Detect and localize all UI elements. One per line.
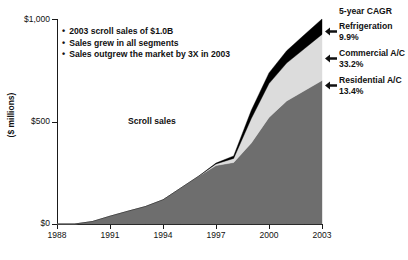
x-tick-label-2003: 2003 <box>300 230 344 240</box>
legend-item-label: Residential A/C <box>339 75 408 86</box>
bullet-item: • Sales grew in all segments <box>62 38 277 50</box>
left-arrow-icon <box>325 22 337 31</box>
legend-item-residential-ac: Residential A/C 13.4% <box>325 75 408 96</box>
bottom-caption <box>2 250 302 258</box>
x-tick-label-1988: 1988 <box>35 230 79 240</box>
x-tick-mark-1988 <box>57 225 58 229</box>
scroll-sales-annotation: Scroll sales <box>128 116 176 126</box>
legend-item-value: 9.9% <box>339 32 408 43</box>
left-arrow-icon <box>325 76 337 85</box>
bullet-text: Sales grew in all segments <box>69 38 178 50</box>
bullet-item: • Sales outgrew the market by 3X in 2003 <box>62 49 277 61</box>
x-tick-mark-1997 <box>216 225 217 229</box>
legend-item-label: Refrigeration <box>339 21 408 32</box>
bullet-text: Sales outgrew the market by 3X in 2003 <box>69 49 230 61</box>
bullet-dot-icon: • <box>62 26 65 38</box>
x-tick-label-1997: 1997 <box>194 230 238 240</box>
legend-item-value: 33.2% <box>339 59 408 70</box>
bullet-text: 2003 scroll sales of $1.0B <box>69 26 173 38</box>
bullet-list: • 2003 scroll sales of $1.0B • Sales gre… <box>62 26 277 61</box>
x-tick-mark-2000 <box>269 225 270 229</box>
bullet-dot-icon: • <box>62 49 65 61</box>
legend-item-label: Commercial A/C <box>339 48 408 59</box>
legend-item-value: 13.4% <box>339 86 408 97</box>
legend-item-commercial-ac: Commercial A/C 33.2% <box>325 48 408 69</box>
legend: 5-year CAGR Refrigeration 9.9% Commercia… <box>325 6 408 101</box>
legend-item-refrigeration: Refrigeration 9.9% <box>325 21 408 42</box>
x-tick-mark-1991 <box>110 225 111 229</box>
left-arrow-icon <box>325 49 337 58</box>
x-tick-label-1991: 1991 <box>88 230 132 240</box>
chart-figure: ($ millions) $1,000 $500 $0 1988 1991 19… <box>0 0 408 260</box>
x-tick-mark-2003 <box>322 225 323 229</box>
x-tick-mark-1994 <box>163 225 164 229</box>
x-tick-label-2000: 2000 <box>247 230 291 240</box>
legend-title: 5-year CAGR <box>339 6 408 16</box>
x-tick-label-1994: 1994 <box>141 230 185 240</box>
bullet-item: • 2003 scroll sales of $1.0B <box>62 26 277 38</box>
bullet-dot-icon: • <box>62 38 65 50</box>
